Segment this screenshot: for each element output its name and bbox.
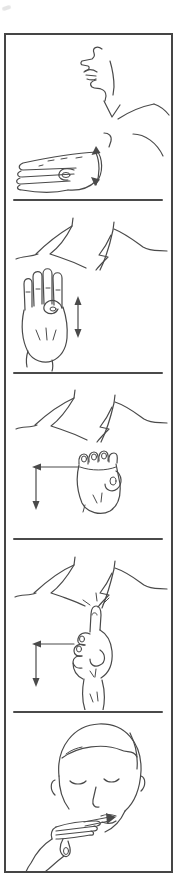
panel-1-flat-hand-wave bbox=[6, 35, 171, 200]
scanned-page bbox=[0, 0, 181, 886]
panel-divider bbox=[13, 372, 163, 374]
open-collar bbox=[15, 557, 167, 608]
open-collar bbox=[16, 218, 167, 270]
left-down-arrow bbox=[32, 641, 74, 688]
panel-divider bbox=[13, 711, 163, 713]
panel-4-index-finger bbox=[6, 541, 171, 710]
open-palm-hand bbox=[22, 269, 67, 371]
front-face bbox=[51, 724, 145, 832]
up-down-arrow bbox=[75, 296, 82, 338]
flat-hand bbox=[17, 152, 99, 192]
illustration-frame bbox=[4, 33, 173, 873]
open-collar bbox=[16, 390, 167, 442]
panel-5-fingers-to-mouth bbox=[6, 714, 171, 871]
profile-head bbox=[81, 47, 114, 101]
left-down-arrow bbox=[32, 464, 79, 511]
hand-at-chin bbox=[25, 821, 100, 871]
collar-and-shoulder bbox=[104, 101, 169, 156]
panel-3-fist bbox=[6, 375, 171, 537]
index-finger-hand bbox=[73, 606, 112, 710]
panel-divider bbox=[13, 538, 163, 540]
panel-2-open-palm bbox=[6, 202, 171, 373]
panel-divider bbox=[13, 199, 163, 201]
fist-hand bbox=[77, 451, 121, 513]
scan-artifact-smudge bbox=[2, 5, 12, 12]
